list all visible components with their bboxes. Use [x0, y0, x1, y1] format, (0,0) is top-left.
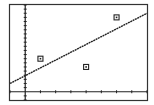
data-point-center	[85, 66, 87, 68]
data-point-center	[116, 17, 118, 19]
data-point-center	[40, 58, 42, 60]
screen-border	[10, 5, 148, 101]
calculator-graph-screen	[0, 0, 154, 105]
